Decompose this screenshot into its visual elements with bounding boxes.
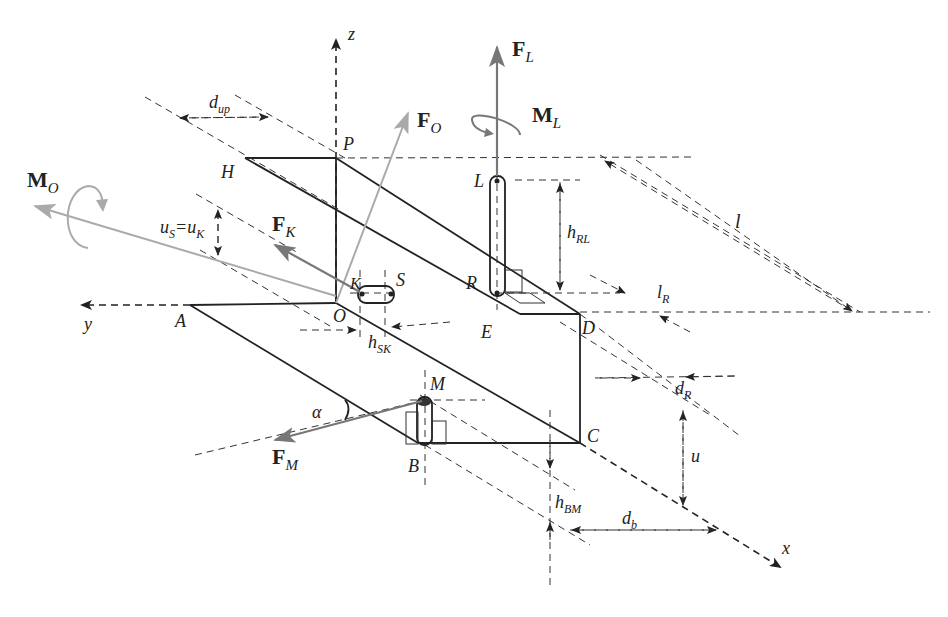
- label-l: l: [735, 210, 741, 232]
- label-M-O: MO: [27, 167, 59, 196]
- free-body-diagram: z y x A B C D E H K L M O P R S FL FO FK…: [0, 0, 948, 617]
- label-F-O: FO: [417, 107, 441, 136]
- point-M: M: [429, 374, 446, 394]
- axis-label-y: y: [82, 314, 92, 334]
- point-D: D: [581, 318, 595, 338]
- point-L: L: [473, 171, 484, 191]
- point-H: H: [220, 162, 235, 182]
- label-d-R: dR: [675, 378, 692, 402]
- axis-label-x: x: [781, 538, 790, 558]
- label-F-K: FK: [272, 211, 296, 240]
- x-axis: [580, 443, 780, 567]
- label-uS-uK: uS=uK: [160, 217, 205, 241]
- point-B: B: [408, 456, 419, 476]
- label-d-b: db: [622, 508, 637, 532]
- label-alpha: α: [312, 402, 322, 422]
- label-h-BM: hBM: [555, 492, 582, 516]
- cylinder-L-R: [490, 176, 545, 303]
- point-R: R: [465, 273, 477, 293]
- diagram-canvas: z y x A B C D E H K L M O P R S FL FO FK…: [0, 0, 948, 617]
- point-K: K: [349, 275, 362, 292]
- angle-alpha-arc: [345, 400, 349, 420]
- force-F-K: [275, 245, 360, 292]
- point-P: P: [342, 134, 354, 154]
- axis-label-z: z: [347, 24, 355, 44]
- label-h-RL: hRL: [567, 222, 590, 246]
- point-E: E: [480, 322, 492, 342]
- point-S: S: [396, 270, 405, 290]
- point-A: A: [174, 311, 187, 331]
- point-C: C: [587, 426, 600, 446]
- label-d-up: dup: [209, 92, 230, 116]
- label-u: u: [691, 446, 700, 466]
- point-O: O: [333, 306, 346, 326]
- label-F-L: FL: [512, 36, 534, 65]
- label-h-SK: hSK: [368, 332, 392, 356]
- construction-lines: [145, 95, 930, 590]
- point-labels: z y x A B C D E H K L M O P R S: [82, 24, 790, 558]
- label-F-M: FM: [272, 444, 299, 473]
- label-l-R: lR: [657, 282, 670, 306]
- cylinder-K-S: [358, 286, 394, 303]
- label-M-L: ML: [532, 102, 561, 131]
